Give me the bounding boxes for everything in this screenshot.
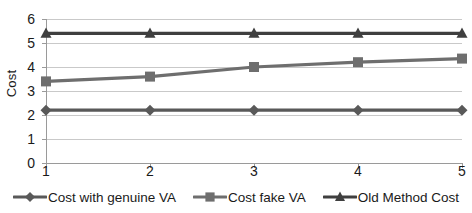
legend-label: Old Method Cost <box>357 190 459 205</box>
x-tick-label: 2 <box>135 163 165 179</box>
x-axis-tick-labels: 12345 <box>0 0 472 213</box>
legend-marker-diamond-icon <box>13 190 47 204</box>
chart-container: Cost 0123456 12345 Cost with genuine VAC… <box>0 0 472 213</box>
legend-entry[interactable]: Cost with genuine VA <box>13 190 176 205</box>
legend-marker-triangle-icon <box>323 190 357 204</box>
legend-label: Cost fake VA <box>227 190 306 205</box>
legend-entry[interactable]: Cost fake VA <box>193 190 306 205</box>
marker-diamond <box>25 192 35 202</box>
x-tick-label: 3 <box>239 163 269 179</box>
x-tick-label: 5 <box>447 163 472 179</box>
legend-swatch <box>13 190 47 204</box>
legend-entry[interactable]: Old Method Cost <box>323 190 459 205</box>
legend-label: Cost with genuine VA <box>47 190 176 205</box>
legend-swatch <box>193 190 227 204</box>
legend-swatch <box>323 190 357 204</box>
marker-square <box>205 192 214 201</box>
x-tick-label: 4 <box>343 163 373 179</box>
x-tick-label: 1 <box>31 163 61 179</box>
chart-legend: Cost with genuine VACost fake VAOld Meth… <box>0 186 472 208</box>
legend-marker-square-icon <box>193 190 227 204</box>
